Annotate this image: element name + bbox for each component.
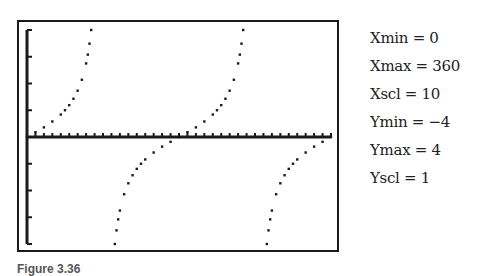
setting-yscl: Yscl = 1 bbox=[370, 164, 460, 192]
data-point bbox=[237, 62, 239, 64]
data-point bbox=[119, 209, 121, 211]
data-point bbox=[169, 141, 171, 143]
data-point bbox=[269, 218, 271, 220]
data-point bbox=[34, 131, 36, 133]
data-point bbox=[152, 151, 154, 153]
data-point bbox=[275, 193, 277, 195]
setting-xmax: Xmax = 360 bbox=[370, 52, 460, 80]
data-point bbox=[304, 151, 306, 153]
data-point bbox=[60, 113, 62, 115]
setting-ymin: Ymin = −4 bbox=[370, 108, 460, 136]
data-point bbox=[242, 29, 244, 31]
data-point bbox=[279, 182, 281, 184]
data-point bbox=[140, 163, 142, 165]
data-point bbox=[76, 90, 78, 92]
data-point bbox=[239, 53, 241, 55]
data-point bbox=[114, 243, 116, 245]
data-point bbox=[131, 174, 133, 176]
data-point bbox=[115, 229, 117, 231]
data-point bbox=[136, 168, 138, 170]
data-point bbox=[68, 104, 70, 106]
data-point bbox=[296, 158, 298, 160]
data-point bbox=[64, 109, 66, 111]
data-point bbox=[233, 79, 235, 81]
data-point bbox=[186, 131, 188, 133]
data-point bbox=[85, 62, 87, 64]
data-point bbox=[117, 218, 119, 220]
data-point bbox=[330, 136, 332, 138]
data-point bbox=[203, 120, 205, 122]
calculator-screen-frame bbox=[17, 20, 339, 252]
data-point bbox=[127, 182, 129, 184]
setting-xscl: Xscl = 10 bbox=[370, 80, 460, 108]
data-point bbox=[88, 42, 90, 44]
data-point bbox=[123, 193, 125, 195]
data-point bbox=[321, 141, 323, 143]
data-point bbox=[72, 98, 74, 100]
data-point bbox=[220, 104, 222, 106]
data-point bbox=[313, 145, 315, 147]
data-point bbox=[267, 229, 269, 231]
data-point bbox=[90, 29, 92, 31]
data-point bbox=[81, 79, 83, 81]
data-point bbox=[271, 209, 273, 211]
data-point bbox=[51, 120, 53, 122]
data-point bbox=[161, 145, 163, 147]
figure-caption: Figure 3.36 bbox=[17, 262, 80, 276]
data-point bbox=[224, 98, 226, 100]
data-point bbox=[283, 174, 285, 176]
data-point bbox=[178, 136, 180, 138]
tangent-graph bbox=[19, 22, 337, 250]
data-point bbox=[195, 126, 197, 128]
data-point bbox=[216, 109, 218, 111]
data-point bbox=[212, 113, 214, 115]
data-point bbox=[292, 163, 294, 165]
data-point bbox=[288, 168, 290, 170]
data-point bbox=[87, 53, 89, 55]
data-point bbox=[266, 243, 268, 245]
data-point bbox=[144, 158, 146, 160]
data-point bbox=[240, 42, 242, 44]
setting-xmin: Xmin = 0 bbox=[370, 24, 460, 52]
data-point bbox=[228, 90, 230, 92]
data-point bbox=[43, 126, 45, 128]
data-point bbox=[26, 136, 28, 138]
window-settings-list: Xmin = 0 Xmax = 360 Xscl = 10 Ymin = −4 … bbox=[370, 24, 460, 192]
setting-ymax: Ymax = 4 bbox=[370, 136, 460, 164]
